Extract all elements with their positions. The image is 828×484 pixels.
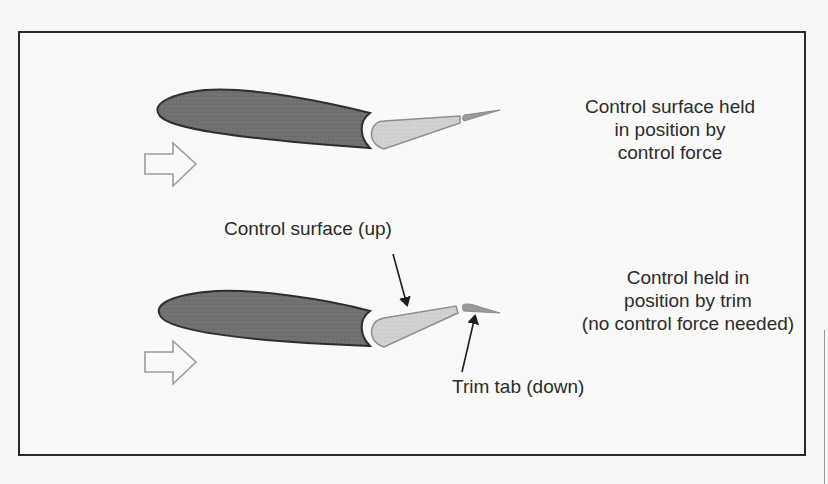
trim-tab-callout-arrow-icon — [462, 316, 475, 372]
top-panel-label: Control surface held in position by cont… — [565, 95, 775, 164]
bottom-label-line-3: (no control force needed) — [568, 312, 808, 335]
control-surface-callout-label: Control surface (up) — [224, 217, 392, 240]
bottom-control-surface — [372, 306, 459, 347]
control-surface-callout-arrow-icon — [393, 254, 407, 305]
bottom-label-line-1: Control held in — [568, 266, 808, 289]
top-label-line-2: in position by — [565, 118, 775, 141]
bottom-trim-tab — [462, 304, 500, 313]
trim-tab-callout-label: Trim tab (down) — [452, 375, 584, 398]
diagram-page: Control surface held in position by cont… — [0, 0, 828, 484]
bottom-airfoil-group — [145, 254, 500, 384]
bottom-main-airfoil — [159, 291, 370, 346]
top-trim-tab — [463, 110, 501, 121]
top-label-line-3: control force — [565, 141, 775, 164]
bottom-airflow-arrow-icon — [145, 341, 196, 384]
top-main-airfoil — [157, 89, 370, 148]
top-label-line-1: Control surface held — [565, 95, 775, 118]
bottom-label-line-2: position by trim — [568, 289, 808, 312]
top-airfoil-group — [145, 89, 500, 186]
top-control-surface — [372, 116, 461, 149]
trim-tab-diagram — [0, 0, 828, 484]
bottom-panel-label: Control held in position by trim (no con… — [568, 266, 808, 335]
top-airflow-arrow-icon — [145, 143, 196, 186]
